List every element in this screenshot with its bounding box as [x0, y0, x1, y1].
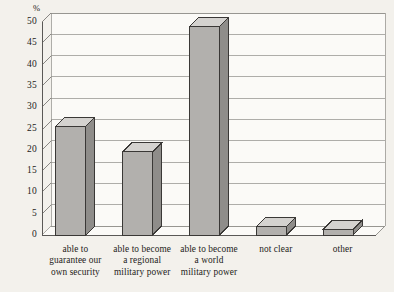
category-label-line: a world [163, 255, 255, 266]
x-axis-category-label: other [297, 244, 389, 255]
bar-chart: % 05101520253035404550able toguarantee o… [0, 0, 394, 292]
y-axis-tick-label: 10 [13, 187, 37, 197]
y-axis-tick-label: 0 [13, 230, 37, 240]
y-axis-tick-label: 20 [13, 145, 37, 155]
chart-labels: 05101520253035404550able toguarantee our… [0, 0, 394, 292]
y-axis-tick-label: 45 [13, 38, 37, 48]
y-axis-tick-label: 25 [13, 124, 37, 134]
y-axis-tick-label: 15 [13, 166, 37, 176]
category-label-line: military power [163, 267, 255, 278]
y-axis-tick-label: 30 [13, 102, 37, 112]
category-label-line: other [297, 244, 389, 255]
y-axis-tick-label: 50 [13, 17, 37, 27]
y-axis-tick-label: 35 [13, 81, 37, 91]
y-axis-tick-label: 5 [13, 209, 37, 219]
y-axis-tick-label: 40 [13, 60, 37, 70]
